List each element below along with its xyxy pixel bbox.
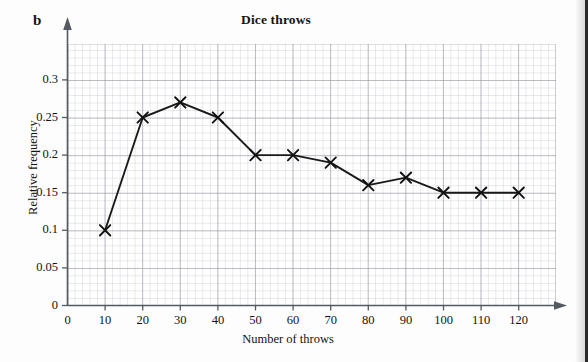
x-tick-label: 20 xyxy=(123,313,163,328)
page-edge-shadow xyxy=(575,0,585,362)
x-tick-label: 110 xyxy=(461,313,501,328)
x-tick-label: 80 xyxy=(348,313,388,328)
y-tick-label: 0 xyxy=(0,298,58,313)
x-tick-label: 50 xyxy=(236,313,276,328)
x-axis-title-text: Number of throws xyxy=(242,332,334,346)
figure-page: b Dice throws 00.050.10.150.20.250.3 010… xyxy=(0,0,588,362)
y-tick-marks xyxy=(62,80,68,306)
x-tick-label: 0 xyxy=(48,313,88,328)
chart-svg xyxy=(0,0,588,362)
x-axis-title: Number of throws xyxy=(0,332,588,347)
y-axis-title-text: Relative frequency xyxy=(26,120,40,215)
x-tick-label: 120 xyxy=(499,313,539,328)
x-tick-label: 100 xyxy=(424,313,464,328)
x-tick-label: 30 xyxy=(160,313,200,328)
y-axis-title: Relative frequency xyxy=(26,73,41,263)
x-tick-label: 70 xyxy=(311,313,351,328)
x-tick-label: 90 xyxy=(386,313,426,328)
series-line xyxy=(105,102,519,230)
x-tick-label: 10 xyxy=(85,313,125,328)
y-axis-arrow xyxy=(63,17,72,30)
x-axis-arrow xyxy=(554,301,567,310)
x-tick-label: 40 xyxy=(198,313,238,328)
x-tick-label: 60 xyxy=(273,313,313,328)
series-markers xyxy=(100,97,524,235)
